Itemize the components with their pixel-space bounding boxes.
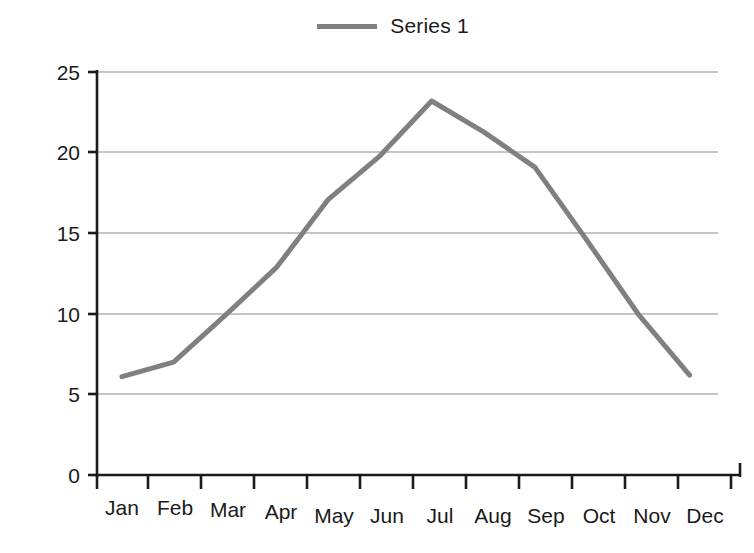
x-tick-label-jun: Jun (357, 505, 417, 526)
y-tick-label-10: 10 (20, 304, 80, 325)
x-tick-label-dec: Dec (675, 505, 735, 526)
x-tick-label-aug: Aug (463, 505, 523, 526)
plot-area (0, 0, 754, 553)
line-chart: Series 1 (0, 0, 754, 553)
x-tick-label-nov: Nov (622, 505, 682, 526)
y-tick-label-15: 15 (20, 223, 80, 244)
y-tick-label-25: 25 (20, 62, 80, 83)
x-tick-label-jan: Jan (92, 497, 152, 518)
y-tick-label-0: 0 (20, 465, 80, 486)
x-tick-label-apr: Apr (251, 501, 311, 522)
x-tick-label-feb: Feb (145, 497, 205, 518)
x-tick-label-sep: Sep (516, 505, 576, 526)
x-tick-label-may: May (304, 505, 364, 526)
y-axis (88, 70, 97, 477)
series-line-series-1 (122, 101, 690, 377)
y-tick-label-5: 5 (20, 384, 80, 405)
y-tick-label-20: 20 (20, 142, 80, 163)
x-tick-label-oct: Oct (569, 505, 629, 526)
x-tick-label-jul: Jul (410, 505, 470, 526)
x-tick-label-mar: Mar (198, 499, 258, 520)
x-axis (97, 463, 740, 489)
